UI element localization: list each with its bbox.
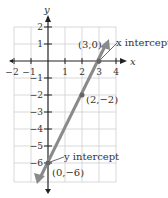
point-x-intercept [97,59,102,64]
point-label-y-intercept: (0,−6) [52,167,84,178]
x-axis-label: x [130,56,136,67]
svg-text:−6: −6 [30,158,44,168]
svg-text:−3: −3 [30,107,44,117]
y-axis-arrow-icon [45,15,51,22]
y-intercept-pointer [50,157,64,162]
y-axis-label: y [43,4,50,15]
svg-text:4: 4 [113,67,119,77]
svg-text:−5: −5 [30,141,44,151]
svg-text:−4: −4 [30,124,44,134]
svg-text:1: 1 [37,39,43,49]
x-axis-left-arrow-icon [9,59,13,63]
svg-text:−2: −2 [30,90,43,100]
svg-text:2: 2 [37,22,43,32]
coordinate-graph: y x −2 −1 1 2 3 4 2 1 −1 −2 −3 −4 −5 −6 … [0,0,168,198]
y-axis-down-arrow-icon [45,189,51,194]
svg-text:1: 1 [62,67,68,77]
x-axis-arrow-icon [120,58,127,64]
svg-text:3: 3 [96,67,102,77]
point-label-mid: (2,−2) [86,94,118,105]
x-tick-labels: −2 −1 1 2 3 4 [5,67,119,77]
svg-text:−1: −1 [30,73,43,83]
y-intercept-annotation: y intercept [63,151,119,162]
svg-text:2: 2 [79,67,85,77]
x-intercept-annotation: x intercept [116,37,168,48]
point-label-x-intercept: (3,0) [78,39,102,50]
svg-text:−2: −2 [5,67,18,77]
point-mid [80,93,85,98]
point-y-intercept [46,161,51,166]
